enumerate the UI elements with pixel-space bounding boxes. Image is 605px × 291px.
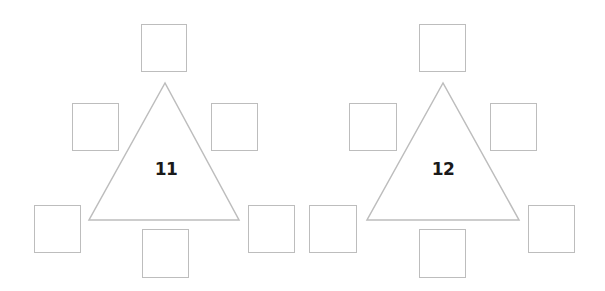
- answer-box-bottom-right[interactable]: [528, 205, 575, 253]
- answer-box-bottom-center[interactable]: [419, 229, 466, 278]
- answer-box-bottom-center[interactable]: [142, 229, 189, 278]
- answer-box-mid-left[interactable]: [72, 103, 119, 151]
- puzzle-canvas: 11 12: [0, 0, 605, 291]
- answer-box-top[interactable]: [419, 24, 466, 72]
- answer-box-mid-right[interactable]: [490, 103, 537, 151]
- center-number: 12: [432, 159, 455, 179]
- center-number: 11: [155, 159, 178, 179]
- answer-box-top[interactable]: [141, 24, 187, 72]
- answer-box-bottom-right[interactable]: [248, 205, 295, 253]
- answer-box-bottom-left[interactable]: [309, 205, 357, 253]
- answer-box-mid-right[interactable]: [211, 103, 258, 151]
- answer-box-mid-left[interactable]: [349, 103, 397, 151]
- answer-box-bottom-left[interactable]: [34, 205, 81, 253]
